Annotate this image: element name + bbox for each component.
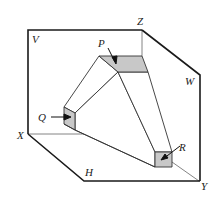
prism <box>64 56 172 167</box>
label-x: X <box>16 129 25 141</box>
label-h: H <box>84 166 94 178</box>
label-v: V <box>32 33 40 45</box>
label-q: Q <box>38 111 46 123</box>
y-axis-line <box>172 162 199 181</box>
label-z: Z <box>137 15 144 27</box>
projection-diagram: V Z P W Q X R H Y <box>0 0 220 197</box>
label-r: R <box>178 141 186 153</box>
label-p: P <box>97 37 105 49</box>
label-y: Y <box>201 180 209 192</box>
label-w: W <box>185 75 195 87</box>
